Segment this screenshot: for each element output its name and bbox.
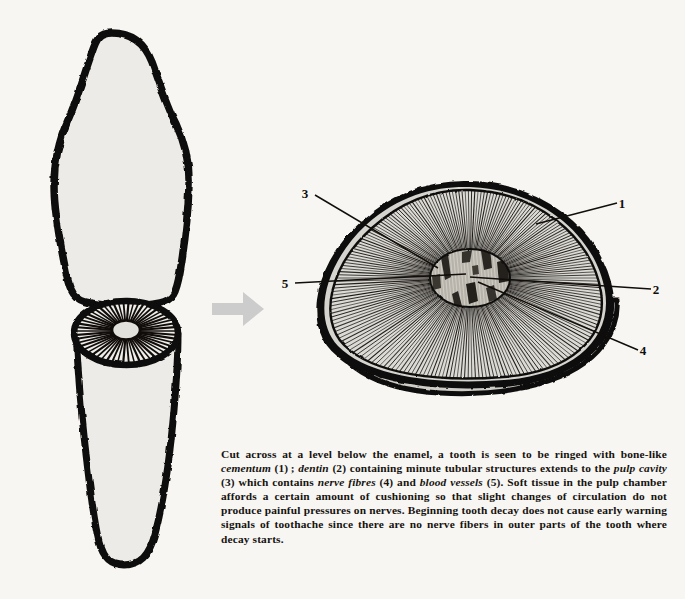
figure-page: 12345 Cut across at a level below the en…: [0, 0, 685, 599]
label-5: 5: [282, 276, 289, 291]
label-4: 4: [640, 343, 647, 358]
caption-text: (2) containing minute tubular structures…: [329, 462, 614, 474]
caption-term: cementum: [221, 462, 271, 474]
label-1: 1: [619, 196, 626, 211]
caption-text: (1) ;: [271, 462, 298, 474]
caption-term: pulp cavity: [614, 462, 667, 474]
caption-text: (3) which contains: [221, 476, 318, 488]
caption-term: dentin: [298, 462, 329, 474]
caption-text: (4) and: [376, 476, 420, 488]
caption-term: nerve fibres: [318, 476, 376, 488]
transition-arrow-icon: [212, 292, 264, 326]
tooth-crown: [54, 33, 189, 306]
label-2: 2: [653, 282, 660, 297]
caption-term: blood vessels: [420, 476, 483, 488]
tooth-cross-section: [260, 103, 680, 453]
figure-caption: Cut across at a level below the enamel, …: [221, 447, 667, 546]
caption-text: Cut across at a level below the enamel, …: [221, 448, 667, 460]
tooth-root: [66, 291, 186, 565]
label-3: 3: [302, 186, 309, 201]
